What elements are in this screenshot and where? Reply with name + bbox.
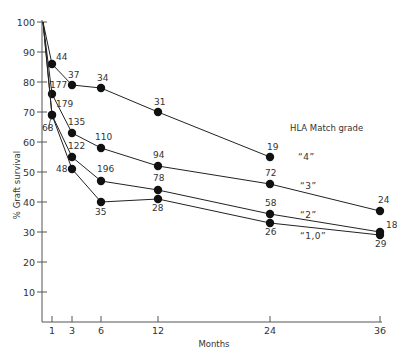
data-point xyxy=(376,231,384,239)
y-tick-label: 30 xyxy=(23,227,35,238)
data-point xyxy=(97,198,105,206)
y-tick-label: 10 xyxy=(23,287,35,298)
point-label: 34 xyxy=(97,73,109,83)
data-point xyxy=(154,186,162,194)
data-point xyxy=(97,144,105,152)
x-tick-label: 6 xyxy=(98,325,104,336)
data-point xyxy=(97,84,105,92)
y-tick-label: 70 xyxy=(23,107,35,118)
point-label: 135 xyxy=(68,117,85,127)
point-label: 29 xyxy=(375,239,387,249)
axes: 102030405060708090100136122436 xyxy=(17,17,386,337)
data-point xyxy=(68,165,76,173)
point-label: 179 xyxy=(56,99,73,109)
data-point xyxy=(68,129,76,137)
point-label: 18 xyxy=(386,220,398,230)
point-label: 24 xyxy=(378,195,390,205)
y-tick-label: 80 xyxy=(23,77,35,88)
point-label: 35 xyxy=(95,207,106,217)
data-point xyxy=(376,207,384,215)
point-label: 72 xyxy=(265,168,276,178)
point-label: 94 xyxy=(153,150,165,160)
series-line xyxy=(43,22,270,157)
x-axis-title: Months xyxy=(198,339,230,349)
point-label: 78 xyxy=(153,173,165,183)
point-label: 196 xyxy=(97,164,114,174)
data-point xyxy=(48,111,56,119)
y-tick-label: 100 xyxy=(17,17,35,28)
x-tick-label: 24 xyxy=(264,325,276,336)
x-tick-label: 12 xyxy=(152,325,164,336)
legend-label-3: “3” xyxy=(300,181,317,191)
legend-label-2: “2” xyxy=(300,210,317,220)
legend-label-1-0: “1,0” xyxy=(300,231,326,241)
legend-label-4: “4” xyxy=(298,152,315,162)
point-label: 48 xyxy=(56,164,68,174)
data-point xyxy=(97,177,105,185)
point-label: 31 xyxy=(154,97,165,107)
y-tick-label: 40 xyxy=(23,197,35,208)
point-label: 58 xyxy=(265,198,277,208)
point-labels: 4437343119177135110947224179122196785818… xyxy=(42,52,398,249)
series-line xyxy=(43,22,380,211)
point-label: 28 xyxy=(152,203,164,213)
point-label: 44 xyxy=(56,52,68,62)
data-point xyxy=(266,219,274,227)
point-label: 122 xyxy=(68,141,85,151)
data-point xyxy=(154,162,162,170)
data-point xyxy=(266,180,274,188)
data-point xyxy=(266,210,274,218)
y-axis-title: % Graft survival xyxy=(12,151,22,219)
point-label: 110 xyxy=(95,132,112,142)
y-tick-label: 90 xyxy=(23,47,35,58)
y-tick-label: 20 xyxy=(23,257,35,268)
y-tick-label: 50 xyxy=(23,167,35,178)
data-point xyxy=(48,90,56,98)
point-label: 177 xyxy=(50,80,67,90)
data-point xyxy=(68,81,76,89)
graft-survival-chart: 102030405060708090100136122436 443734311… xyxy=(0,0,401,357)
x-tick-label: 36 xyxy=(374,325,386,336)
y-tick-label: 60 xyxy=(23,137,35,148)
data-point xyxy=(266,153,274,161)
point-label: 19 xyxy=(267,142,279,152)
x-tick-label: 1 xyxy=(49,325,55,336)
point-label: 26 xyxy=(265,227,277,237)
point-label: 37 xyxy=(68,70,79,80)
legend-title: HLA Match grade xyxy=(290,123,363,133)
x-tick-label: 3 xyxy=(69,325,75,336)
data-point xyxy=(154,195,162,203)
data-point xyxy=(154,108,162,116)
